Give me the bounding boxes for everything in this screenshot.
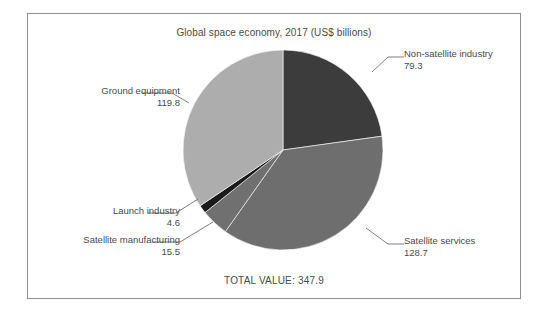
callout-value-nonsatellite: 79.3 [404, 60, 493, 72]
callout-label-ground-equipment: Ground equipment [101, 85, 180, 96]
callout-value-launch-industry: 4.6 [49, 217, 180, 229]
callout-label-satellite-services: Satellite services [404, 235, 475, 246]
callout-label-nonsatellite: Non-satellite industry [404, 48, 493, 59]
callout-label-launch-industry: Launch industry [113, 205, 180, 216]
total-value-label: TOTAL VALUE: 347.9 [27, 275, 521, 286]
callout-ground-equipment: Ground equipment 119.8 [58, 85, 180, 109]
callout-launch-industry: Launch industry 4.6 [49, 205, 180, 229]
leader-line-nonsatellite [372, 57, 404, 72]
callout-nonsatellite-industry: Non-satellite industry 79.3 [404, 48, 493, 72]
callout-satellite-manufacturing: Satellite manufacturing 15.5 [33, 234, 180, 258]
callout-satellite-services: Satellite services 128.7 [404, 235, 475, 259]
callout-value-satellite-services: 128.7 [404, 247, 475, 259]
callout-value-satellite-manufacturing: 15.5 [33, 246, 180, 258]
pie-slices-group [183, 50, 383, 250]
figure-container: Global space economy, 2017 (US$ billions… [0, 0, 549, 316]
callout-value-ground-equipment: 119.8 [58, 97, 180, 109]
callout-label-satellite-manufacturing: Satellite manufacturing [83, 234, 180, 245]
pie-slice-non-satellite-industry [283, 50, 382, 150]
leader-line-satellite-services [366, 228, 404, 244]
